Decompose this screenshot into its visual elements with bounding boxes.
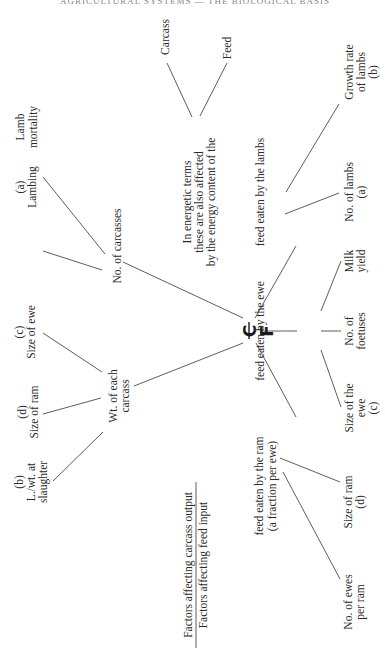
lamb-mortality-node: Lamb mortality [14,106,40,148]
svg-text:(b): (b) [367,65,380,79]
feed-node: Feed [221,37,233,60]
no-of-lambs-node: No. of lambs (a) [343,162,368,222]
svg-text:Wt. of each: Wt. of each [107,369,119,423]
svg-text:carcass: carcass [119,379,131,413]
svg-text:L./wt. at: L./wt. at [25,462,37,501]
svg-text:Size of the: Size of the [343,383,355,432]
svg-text:ewe: ewe [355,399,367,418]
svg-text:yield: yield [355,249,368,272]
svg-text:Lamb: Lamb [14,113,26,140]
svg-text:(d): (d) [354,495,367,509]
svg-text:mortality: mortality [27,106,40,148]
svg-text:(a fraction per ewe): (a fraction per ewe) [266,441,279,532]
running-header: AGRICULTURAL SYSTEMS — THE BIOLOGICAL BA… [60,0,330,6]
legend-fraction: Factors affecting carcass output Factors… [182,482,210,648]
no-of-foetuses-node: No. of foetuses [343,312,367,350]
feed-eaten-by-ram-label: feed eaten by the ram (a fraction per ew… [253,436,279,535]
milk-yield-node: Milk yield [343,249,368,272]
no-of-carcasses-label: No. of carcasses [111,208,123,284]
svg-text:these are also affected: these are also affected [193,151,205,253]
energy-note: In energetic terms these are also affect… [181,138,218,266]
svg-text:Milk: Milk [343,250,355,273]
size-of-ram-input-node: Size of ram (d) [342,475,367,528]
svg-text:(c): (c) [367,401,380,414]
svg-text:Size of ram: Size of ram [342,475,354,528]
svg-text:per ram: per ram [354,584,367,619]
legend-numerator: Factors affecting carcass output [182,491,195,638]
wt-of-each-carcass-label: Wt. of each carcass [107,369,131,423]
carcass-node: Carcass [159,19,171,55]
legend-denominator: Factors affecting feed input [197,501,210,628]
size-of-the-ewe-node: Size of the ewe (c) [343,383,380,432]
liveweight-at-slaughter-node: (b) L./wt. at slaughter [13,461,50,503]
size-of-ram-node: (d) Size of ram [16,385,40,438]
feed-eaten-by-ewe-label: feed eaten by the ewe [254,281,267,381]
svg-text:slaughter: slaughter [37,461,50,503]
svg-text:Size of ram: Size of ram [28,385,40,438]
svg-text:by the energy content of the: by the energy content of the [205,138,218,266]
size-of-ewe-node: (c) Size of ewe [13,305,37,359]
svg-text:feed eaten by the ram: feed eaten by the ram [253,436,266,535]
lambing-node: (a) Lambing [14,166,39,208]
svg-text:No. of lambs: No. of lambs [343,162,355,222]
cf-diagram: AGRICULTURAL SYSTEMS — THE BIOLOGICAL BA… [0,0,385,657]
svg-text:No. of ewes: No. of ewes [342,574,354,630]
svg-text:(a): (a) [355,185,368,198]
feed-eaten-by-lambs-label: feed eaten by the lambs [254,137,267,246]
no-of-ewes-per-ram-node: No. of ewes per ram [342,574,367,630]
growth-rate-of-lambs-node: Growth rate of lambs (b) [343,44,380,99]
svg-text:Size of ewe: Size of ewe [25,305,37,359]
svg-text:of lambs: of lambs [355,52,367,92]
svg-text:Lambing: Lambing [26,166,39,208]
svg-text:foetuses: foetuses [355,312,367,350]
svg-text:No. of: No. of [343,316,355,346]
svg-text:Growth rate: Growth rate [343,44,355,99]
